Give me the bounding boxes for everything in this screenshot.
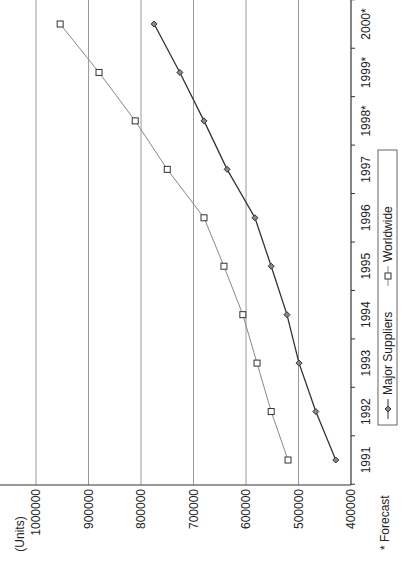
legend-label: Worldwide	[381, 206, 395, 262]
square-marker	[254, 360, 260, 366]
line-chart: 4000005000006000007000008000009000001000…	[0, 0, 405, 564]
axes: 4000005000006000007000008000009000001000…	[0, 0, 373, 536]
y-tick-label: 600000	[239, 489, 253, 529]
y-tick-label: 800000	[134, 489, 148, 529]
square-marker	[240, 312, 246, 318]
gridlines	[36, 0, 299, 485]
square-marker	[285, 457, 291, 463]
x-tick-label: 1993	[359, 349, 373, 376]
diamond-marker	[252, 215, 258, 221]
y-tick-label: 700000	[187, 489, 201, 529]
diamond-marker	[151, 21, 157, 27]
x-tick-label: 1996	[359, 204, 373, 231]
square-marker	[221, 263, 227, 269]
x-tick-label: 1994	[359, 301, 373, 328]
diamond-marker	[284, 312, 290, 318]
diamond-marker	[333, 457, 339, 463]
y-tick-label: 500000	[292, 489, 306, 529]
x-tick-label: 2000*	[359, 8, 373, 40]
x-tick-label: 1992	[359, 398, 373, 425]
square-marker	[96, 69, 102, 75]
square-marker	[385, 273, 391, 279]
y-tick-label: 400000	[344, 489, 358, 529]
diamond-marker	[201, 118, 207, 124]
square-marker	[268, 409, 274, 415]
x-tick-label: 1995	[359, 253, 373, 280]
legend: Major SuppliersWorldwide	[378, 150, 397, 425]
square-marker	[57, 21, 63, 27]
diamond-marker	[177, 69, 183, 75]
x-tick-label: 1999*	[359, 56, 373, 88]
series-lines	[57, 21, 339, 463]
x-tick-label: 1997	[359, 156, 373, 183]
square-marker	[201, 215, 207, 221]
diamond-marker	[313, 409, 319, 415]
series-line	[60, 24, 288, 460]
diamond-marker	[296, 360, 302, 366]
chart-rotated-container: 4000005000006000007000008000009000001000…	[0, 0, 405, 564]
y-axis-label: (Units)	[13, 516, 27, 551]
square-marker	[164, 166, 170, 172]
diamond-marker	[268, 263, 274, 269]
legend-label: Major Suppliers	[381, 312, 395, 395]
x-tick-label: 1998*	[359, 105, 373, 137]
square-marker	[132, 118, 138, 124]
y-tick-label: 1000000	[29, 489, 43, 536]
y-tick-label: 900000	[82, 489, 96, 529]
footnote: * Forecast	[378, 495, 392, 550]
series-line	[154, 24, 336, 460]
x-tick-label: 1991	[359, 446, 373, 473]
diamond-marker	[224, 166, 230, 172]
